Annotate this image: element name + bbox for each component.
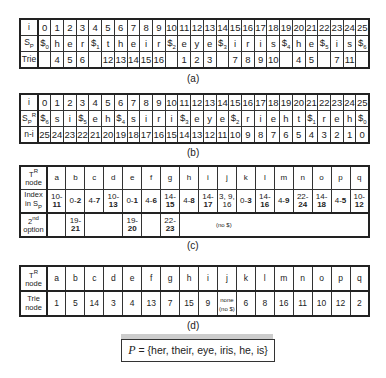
- empty-cell: [312, 213, 331, 237]
- cell: i: [140, 36, 153, 52]
- cell: 16: [242, 19, 255, 36]
- cell: 11: [178, 94, 191, 111]
- cell: e: [267, 111, 280, 127]
- cell: 25: [356, 94, 369, 111]
- cell: q: [350, 166, 369, 190]
- note-no-dollar: (no $): [216, 222, 232, 228]
- cell: a: [47, 266, 66, 291]
- cell: [356, 52, 369, 69]
- row-header: SP: [20, 36, 38, 52]
- empty-cell: [293, 213, 312, 237]
- row-i: i012345678910111213141516171819202122232…: [20, 19, 369, 36]
- cell: l: [255, 266, 274, 291]
- cell: 15: [140, 52, 153, 69]
- cell: 10: [165, 94, 178, 111]
- cell: o: [312, 166, 331, 190]
- cell: 17: [254, 94, 267, 111]
- cell: 3: [203, 52, 216, 69]
- index-cell: 4-5: [331, 190, 350, 214]
- cell: 8: [255, 291, 274, 316]
- cell: 13: [203, 19, 216, 36]
- cell: e: [178, 36, 191, 52]
- index-cell: 4-7: [85, 190, 104, 214]
- index-cell: 14-18: [312, 190, 331, 214]
- cell: 19: [280, 94, 293, 111]
- row-trie: Trie45612131415161237891045711: [20, 52, 369, 69]
- cell: 4: [51, 52, 64, 69]
- cell: 21: [89, 127, 102, 144]
- cell: 10: [229, 127, 242, 144]
- cell: 6: [236, 291, 255, 316]
- cell: 22: [76, 127, 89, 144]
- cell: i: [331, 36, 344, 52]
- cell: e: [89, 111, 102, 127]
- cell: 8: [140, 94, 153, 111]
- cell: 14: [216, 94, 229, 111]
- cell: i: [63, 111, 76, 127]
- pattern-set-box: P = {her, their, eye, iris, he, is}: [121, 339, 275, 362]
- cell: d: [104, 266, 123, 291]
- cell: $4: [280, 36, 293, 52]
- cell: 6: [280, 127, 293, 144]
- cell: 4: [305, 127, 318, 144]
- caption-a: (a): [187, 73, 199, 84]
- cell: 20: [292, 19, 305, 36]
- cell: 24: [343, 19, 356, 36]
- row-sp: SP$0her$1their$2eye$3iris$4he$5is$6: [20, 36, 369, 52]
- cell: c: [85, 166, 104, 190]
- cell: 15: [180, 291, 199, 316]
- index-cell: 0-2: [66, 190, 85, 214]
- index-cell: 10-11: [47, 190, 66, 214]
- cell: $5: [318, 36, 331, 52]
- cell: 6: [114, 19, 127, 36]
- cell: 16: [152, 127, 165, 144]
- index-cell: 3, 9,16: [217, 190, 236, 214]
- cell: 14: [85, 291, 104, 316]
- cell: k: [236, 166, 255, 190]
- table-d: TRnodeabcdefghijklmnopq Trienode15143413…: [19, 265, 370, 317]
- cell: 5: [102, 94, 115, 111]
- cell: c: [85, 266, 104, 291]
- cell: j: [217, 266, 236, 291]
- cell: h: [292, 36, 305, 52]
- cell: 13: [203, 94, 216, 111]
- cell: 8: [254, 127, 267, 144]
- cell: r: [318, 111, 331, 127]
- cell: r: [242, 36, 255, 52]
- row-spr: SPR$6si$5eh$4siri$3eye$2rieht$1reh$0: [20, 111, 369, 127]
- cell: 7: [127, 19, 140, 36]
- cell: 25: [356, 19, 369, 36]
- cell: e: [123, 266, 142, 291]
- cell: 16: [242, 94, 255, 111]
- cell: $6: [356, 36, 369, 52]
- cell: r: [76, 36, 89, 52]
- cell: 14: [178, 127, 191, 144]
- row-header: Indexin SP: [20, 190, 47, 214]
- cell: y: [203, 111, 216, 127]
- cell: 16: [274, 291, 293, 316]
- cell: $5: [76, 111, 89, 127]
- cell: $1: [305, 111, 318, 127]
- cell: n: [293, 166, 312, 190]
- cell: s: [267, 36, 280, 52]
- cell: 7: [229, 52, 242, 69]
- empty-cell: [331, 213, 350, 237]
- index-cell: 14-16: [255, 190, 274, 214]
- cell: 11: [343, 52, 356, 69]
- cell: s: [127, 111, 140, 127]
- cell: r: [152, 111, 165, 127]
- cell: 7: [331, 52, 344, 69]
- cell: 19: [114, 127, 127, 144]
- cell: 9: [152, 94, 165, 111]
- cell: r: [242, 111, 255, 127]
- cell: $4: [114, 111, 127, 127]
- empty-cell: [104, 213, 123, 237]
- cell: d: [104, 166, 123, 190]
- row-header: 2ndoption: [20, 213, 47, 237]
- cell: g: [161, 266, 180, 291]
- cell: 18: [267, 19, 280, 36]
- cell: t: [102, 36, 115, 52]
- row-header: i: [20, 19, 38, 36]
- index-cell: 0-3: [236, 190, 255, 214]
- cell: 2: [350, 291, 369, 316]
